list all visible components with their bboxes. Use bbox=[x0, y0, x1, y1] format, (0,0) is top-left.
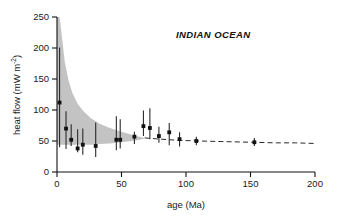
data-marker bbox=[58, 101, 62, 105]
y-axis-title-close: ) bbox=[11, 55, 22, 58]
y-tick-label-150: 150 bbox=[33, 73, 49, 84]
y-tick-label-200: 200 bbox=[33, 42, 49, 53]
data-marker bbox=[148, 126, 152, 130]
data-marker bbox=[81, 143, 85, 147]
y-tick-label-50: 50 bbox=[38, 135, 49, 146]
y-tick-label-0: 0 bbox=[44, 166, 49, 177]
x-tick-label-200: 200 bbox=[307, 178, 323, 189]
data-marker bbox=[118, 138, 122, 142]
data-marker bbox=[114, 138, 118, 142]
data-marker bbox=[94, 144, 98, 148]
y-axis-title-main: heat flow (mW m bbox=[11, 64, 22, 135]
panel-title: INDIAN OCEAN bbox=[176, 29, 251, 40]
x-axis-title: age (Ma) bbox=[167, 199, 205, 210]
data-marker bbox=[194, 139, 198, 143]
x-tick-label-0: 0 bbox=[54, 178, 59, 189]
y-axis-title: heat flow (mW m-2) bbox=[10, 55, 22, 135]
data-marker bbox=[167, 130, 171, 134]
data-marker bbox=[157, 134, 161, 138]
data-marker bbox=[142, 124, 146, 128]
x-tick-label-100: 100 bbox=[178, 178, 194, 189]
chart-background bbox=[0, 0, 338, 218]
svg-text:heat flow (mW m-2): heat flow (mW m-2) bbox=[10, 55, 22, 135]
data-marker bbox=[252, 140, 256, 144]
x-tick-label-50: 50 bbox=[116, 178, 127, 189]
y-tick-label-100: 100 bbox=[33, 104, 49, 115]
x-tick-label-150: 150 bbox=[243, 178, 259, 189]
data-marker bbox=[64, 127, 68, 131]
chart-canvas: 050100150200250 050100150200 INDIAN OCEA… bbox=[0, 0, 338, 218]
y-tick-label-250: 250 bbox=[33, 11, 49, 22]
heat-flow-chart-figure: 050100150200250 050100150200 INDIAN OCEA… bbox=[0, 0, 338, 218]
data-marker bbox=[178, 137, 182, 141]
data-marker bbox=[69, 138, 73, 142]
data-marker bbox=[76, 147, 80, 151]
data-marker bbox=[133, 135, 137, 139]
